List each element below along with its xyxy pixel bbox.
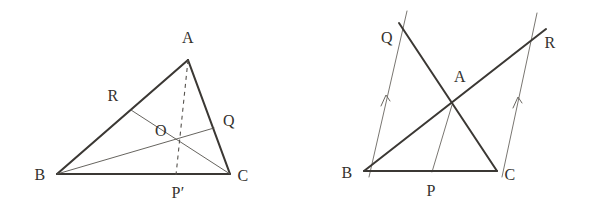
left-figure-group — [57, 60, 230, 175]
left-label-P-prime: P′ — [172, 185, 185, 201]
left-label-C: C — [238, 168, 249, 184]
left-label-R: R — [108, 88, 119, 104]
right-label-C: C — [505, 167, 516, 183]
left-label-Q: Q — [223, 113, 235, 129]
left-label-O: O — [155, 123, 167, 139]
left-label-A: A — [182, 30, 194, 46]
right-label-A: A — [454, 69, 466, 85]
right-line-C-A-Q — [399, 23, 497, 171]
right-label-B: B — [342, 165, 353, 181]
left-side-AB — [57, 60, 188, 174]
left-label-B: B — [35, 167, 46, 183]
left-cevian-CR — [131, 110, 230, 174]
right-label-R: R — [545, 35, 556, 51]
right-parallel-ray-from-C — [502, 13, 537, 177]
right-label-P: P — [426, 183, 435, 199]
left-cevian-AP-prime — [176, 60, 188, 175]
right-label-Q: Q — [381, 30, 393, 46]
left-cevian-BQ — [57, 128, 214, 174]
geometry-vector-layer — [0, 0, 592, 213]
geometry-figure-canvas: A B C R Q O P′ A B C Q R P — [0, 0, 592, 213]
